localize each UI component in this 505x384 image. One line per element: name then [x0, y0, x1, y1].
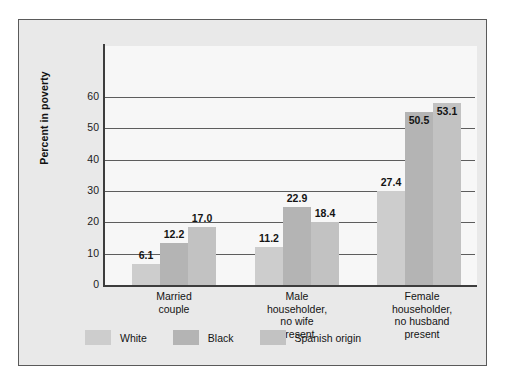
bar-spanish-female-householder[interactable]: 53.1: [433, 103, 461, 285]
bar-white-married-couple[interactable]: 6.1: [132, 264, 160, 285]
bar-spanish-male-householder[interactable]: 18.4: [311, 222, 339, 285]
legend-swatch-icon: [173, 330, 199, 345]
y-tick-0: 0: [69, 285, 99, 286]
bar-value: 27.4: [381, 176, 401, 188]
x-axis-line: [103, 285, 477, 287]
bar-black-female-householder[interactable]: 50.5: [405, 112, 433, 285]
bar-white-male-householder[interactable]: 11.2: [255, 247, 283, 285]
y-tick-30: 30: [69, 191, 99, 192]
bars-container: 6.1 12.2 17.0 11.2 22.9 18.4 27.4 50.5 5…: [105, 63, 477, 285]
bar-black-married-couple[interactable]: 12.2: [160, 243, 188, 285]
bar-value: 22.9: [287, 192, 307, 204]
legend-swatch-icon: [260, 330, 286, 345]
legend-item-spanish-origin[interactable]: Spanish origin: [260, 330, 362, 345]
y-tick-50: 50: [69, 128, 99, 129]
y-tick-20: 20: [69, 222, 99, 223]
bar-value: 50.5: [409, 114, 429, 126]
chart-figure: 60 50 40 30 20 10 0 Percent in poverty 6…: [18, 19, 487, 366]
bar-value: 53.1: [437, 105, 457, 117]
category-label-married-couple: Married couple: [119, 290, 229, 315]
bar-value: 6.1: [139, 249, 154, 261]
y-tick-40: 40: [69, 160, 99, 161]
y-tick-10: 10: [69, 254, 99, 255]
legend-label: White: [120, 332, 147, 344]
bar-black-male-householder[interactable]: 22.9: [283, 207, 311, 285]
legend-swatch-icon: [85, 330, 111, 345]
legend-label: Spanish origin: [295, 332, 362, 344]
chart-legend: White Black Spanish origin: [85, 330, 387, 345]
bar-value: 12.2: [164, 228, 184, 240]
y-tick-60: 60: [69, 97, 99, 98]
legend-item-black[interactable]: Black: [173, 330, 234, 345]
bar-spanish-married-couple[interactable]: 17.0: [188, 227, 216, 285]
bar-value: 11.2: [259, 232, 279, 244]
legend-item-white[interactable]: White: [85, 330, 147, 345]
bar-white-female-householder[interactable]: 27.4: [377, 191, 405, 285]
bar-value: 18.4: [315, 207, 335, 219]
y-axis-title: Percent in poverty: [38, 53, 50, 183]
bar-value: 17.0: [192, 212, 212, 224]
legend-label: Black: [208, 332, 234, 344]
